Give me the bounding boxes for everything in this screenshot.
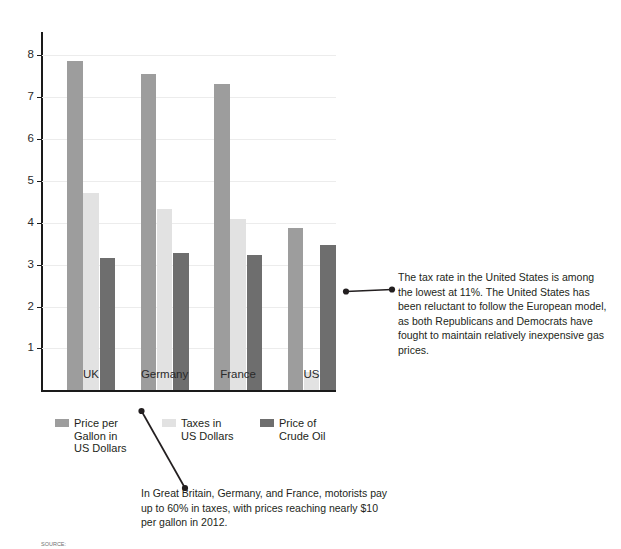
chart-legend: Price per Gallon in US Dollars Taxes in … xyxy=(55,417,345,467)
gridline xyxy=(42,97,336,98)
bar xyxy=(83,193,99,391)
y-axis-tick-label: 2 xyxy=(28,301,34,313)
y-axis-tick xyxy=(37,55,41,56)
y-axis-tick-label: 8 xyxy=(28,49,34,61)
bar xyxy=(230,219,246,391)
y-axis-tick xyxy=(37,139,41,140)
legend-swatch-price-per-gallon xyxy=(55,419,69,427)
legend-label-price-per-gallon: Price per Gallon in US Dollars xyxy=(74,417,127,455)
gridline xyxy=(42,139,336,140)
y-axis-line xyxy=(41,32,43,392)
bar xyxy=(67,61,83,390)
gridline xyxy=(42,181,336,182)
legend-item-price-per-gallon: Price per Gallon in US Dollars xyxy=(55,417,127,455)
y-axis-tick xyxy=(37,181,41,182)
annotation-us-tax-note: The tax rate in the United States is amo… xyxy=(398,270,610,357)
source-note: SOURCE: xyxy=(41,541,66,548)
y-axis-tick xyxy=(37,223,41,224)
annotation-europe-tax-note: In Great Britain, Germany, and France, m… xyxy=(141,486,389,530)
y-axis-tick xyxy=(37,265,41,266)
x-axis-line xyxy=(41,390,336,392)
plot-area: 12345678 xyxy=(41,32,336,392)
y-axis-tick-label: 5 xyxy=(28,175,34,187)
bar xyxy=(157,209,173,390)
y-axis-tick-label: 7 xyxy=(28,91,34,103)
y-axis-tick xyxy=(37,348,41,349)
legend-swatch-crude-oil xyxy=(260,419,274,427)
y-axis-tick xyxy=(37,307,41,308)
y-axis-tick-label: 1 xyxy=(28,343,34,355)
leader-line-europe-tax-note xyxy=(136,405,192,495)
gridline xyxy=(42,55,336,56)
bar xyxy=(141,74,157,391)
y-axis-tick xyxy=(37,97,41,98)
legend-item-crude-oil: Price of Crude Oil xyxy=(260,417,325,442)
leader-line-us-tax-note xyxy=(340,280,400,302)
bar xyxy=(214,84,230,391)
y-axis-tick-label: 6 xyxy=(28,133,34,145)
chart-figure: 12345678 UKGermanyFranceUS Price per Gal… xyxy=(0,0,621,549)
bar xyxy=(288,228,304,391)
x-axis-label-us: US xyxy=(262,368,362,380)
legend-label-crude-oil: Price of Crude Oil xyxy=(279,417,325,442)
y-axis-tick-label: 4 xyxy=(28,217,34,229)
y-axis-tick-label: 3 xyxy=(28,259,34,271)
